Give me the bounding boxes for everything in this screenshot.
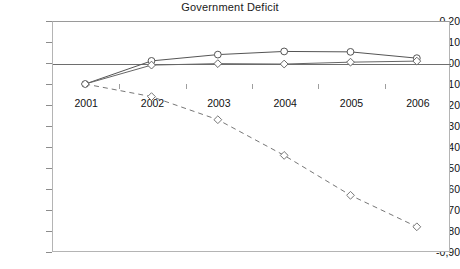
x-tick-mark	[385, 84, 386, 89]
chart-screenshot: Government Deficit 0,200,100,00-0,10-0,2…	[0, 0, 460, 269]
x-tick-label-2003: 2003	[207, 97, 230, 109]
x-tick-label-2004: 2004	[273, 97, 296, 109]
x-tick-label-2001: 2001	[74, 97, 97, 109]
chart-title: Government Deficit	[0, 1, 460, 13]
zero-baseline	[53, 64, 451, 65]
x-tick-mark	[318, 84, 319, 89]
plot-area: 200120022003200420052006	[52, 21, 450, 252]
y-tick-mark	[46, 252, 52, 253]
x-tick-mark	[186, 84, 187, 89]
x-tick-mark	[252, 84, 253, 89]
x-tick-label-2005: 2005	[340, 97, 363, 109]
x-tick-label-2006: 2006	[406, 97, 429, 109]
x-tick-mark	[119, 84, 120, 89]
x-tick-label-2002: 2002	[141, 97, 164, 109]
